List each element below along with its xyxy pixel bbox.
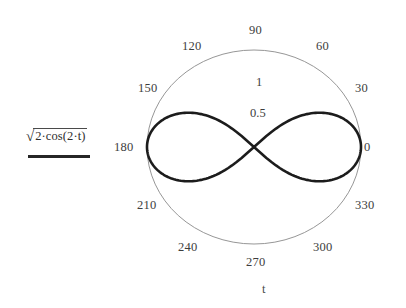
radial-label-1: 1	[256, 76, 262, 89]
angle-label-330: 330	[355, 199, 374, 212]
polar-plot-figure: √2·cos(2·t) 0 30 60 90 120 150 180 210 2…	[0, 0, 406, 308]
angle-label-270: 270	[246, 256, 265, 269]
angle-label-180: 180	[114, 141, 133, 154]
angle-label-30: 30	[355, 82, 368, 95]
lemniscate-left-lobe	[147, 113, 254, 182]
angle-label-240: 240	[178, 241, 197, 254]
angle-label-210: 210	[137, 199, 156, 212]
angle-label-0: 0	[364, 141, 370, 154]
radial-label-0-5: 0.5	[250, 107, 266, 120]
lemniscate-right-lobe	[254, 113, 361, 182]
angle-label-120: 120	[182, 40, 201, 53]
polar-graph-canvas	[0, 0, 406, 308]
angle-label-60: 60	[316, 40, 329, 53]
angle-label-300: 300	[313, 241, 332, 254]
angle-label-150: 150	[138, 82, 157, 95]
angle-label-90: 90	[249, 24, 262, 37]
axis-variable-label: t	[262, 283, 265, 296]
